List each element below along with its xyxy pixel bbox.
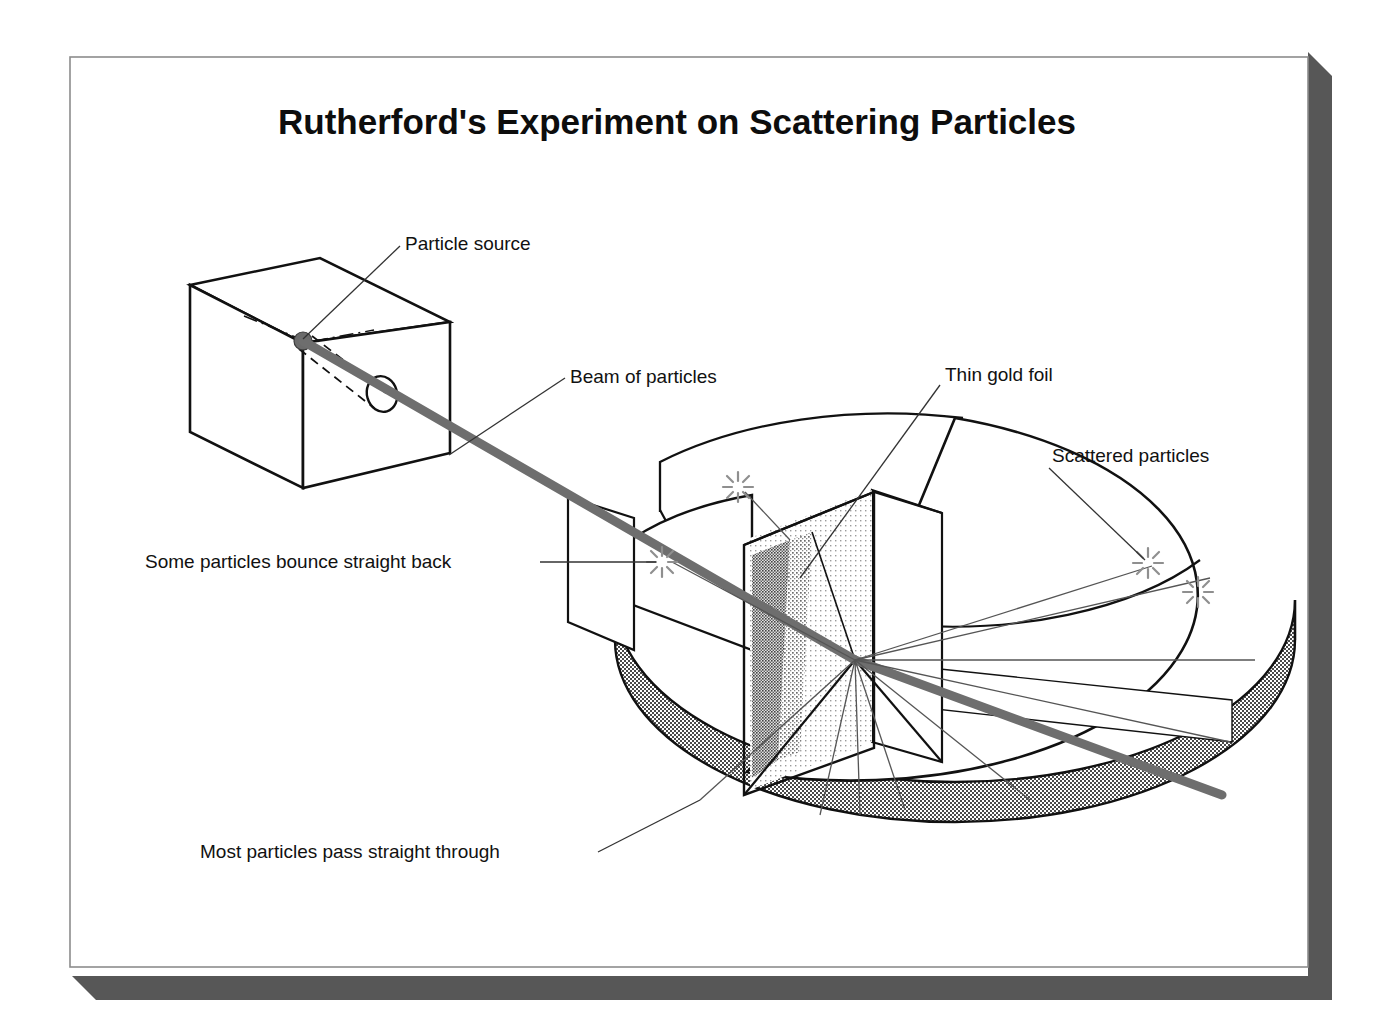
label-particle-source: Particle source bbox=[405, 233, 531, 254]
diagram-title: Rutherford's Experiment on Scattering Pa… bbox=[278, 102, 1076, 141]
label-scattered-particles: Scattered particles bbox=[1052, 445, 1209, 466]
label-bounce-straight-back: Some particles bounce straight back bbox=[145, 551, 452, 572]
label-pass-straight-through: Most particles pass straight through bbox=[200, 841, 500, 862]
diagram-canvas: Rutherford's Experiment on Scattering Pa… bbox=[0, 0, 1384, 1015]
rutherford-diagram-svg: Rutherford's Experiment on Scattering Pa… bbox=[0, 0, 1384, 1015]
label-beam-of-particles: Beam of particles bbox=[570, 366, 717, 387]
label-thin-gold-foil: Thin gold foil bbox=[945, 364, 1053, 385]
backscatter-screen-panel bbox=[568, 497, 634, 650]
